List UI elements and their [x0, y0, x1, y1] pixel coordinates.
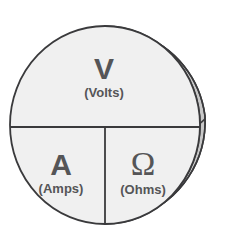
- segment-voltage: V (Volts): [58, 54, 150, 99]
- current-unit: (Amps): [22, 182, 100, 195]
- current-symbol: A: [22, 150, 100, 180]
- cylinder-illustration: [0, 0, 240, 239]
- voltage-unit: (Volts): [58, 86, 150, 99]
- segment-current: A (Amps): [22, 150, 100, 195]
- resistance-symbol: Ω: [104, 148, 182, 181]
- voltage-symbol: V: [58, 54, 150, 84]
- resistance-unit: (Ohms): [104, 183, 182, 196]
- ohms-law-cylinder-diagram: V (Volts) A (Amps) Ω (Ohms): [0, 0, 240, 239]
- segment-resistance: Ω (Ohms): [104, 148, 182, 196]
